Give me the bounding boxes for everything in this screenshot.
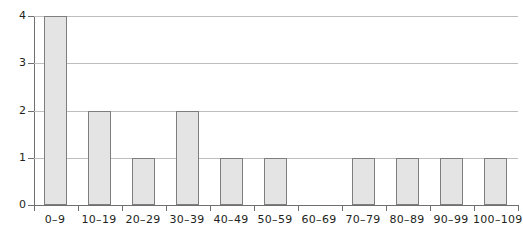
y-tick-label: 1 xyxy=(6,152,26,163)
bar xyxy=(264,158,287,205)
y-tick-label: 3 xyxy=(6,57,26,68)
bar xyxy=(220,158,243,205)
bar xyxy=(132,158,155,205)
bar xyxy=(176,111,199,206)
x-tick-mark xyxy=(34,205,35,211)
x-tick-label: 80–89 xyxy=(385,214,429,226)
x-tick-mark xyxy=(78,205,79,211)
y-tick-label: 4 xyxy=(6,10,26,21)
y-tick-label: 0 xyxy=(6,199,26,210)
x-tick-label: 100–109 xyxy=(473,214,517,226)
bar xyxy=(88,111,111,206)
x-tick-mark xyxy=(474,205,475,211)
y-tick-label: 2 xyxy=(6,105,26,116)
histogram-chart: g 01234 0–910–1920–2930–3940–4950–5960–6… xyxy=(0,0,523,232)
x-tick-label: 30–39 xyxy=(165,214,209,226)
bar xyxy=(352,158,375,205)
x-tick-label: 70–79 xyxy=(341,214,385,226)
x-tick-mark xyxy=(430,205,431,211)
x-tick-mark xyxy=(166,205,167,211)
x-tick-label: 0–9 xyxy=(33,214,77,226)
x-tick-label: 60–69 xyxy=(297,214,341,226)
x-tick-label: 40–49 xyxy=(209,214,253,226)
x-tick-label: 20–29 xyxy=(121,214,165,226)
bar xyxy=(396,158,419,205)
x-tick-mark xyxy=(518,205,519,211)
x-tick-label: 50–59 xyxy=(253,214,297,226)
x-tick-label: 90–99 xyxy=(429,214,473,226)
x-tick-mark xyxy=(210,205,211,211)
x-tick-mark xyxy=(122,205,123,211)
x-tick-mark xyxy=(342,205,343,211)
x-tick-label: 10–19 xyxy=(77,214,121,226)
x-tick-mark xyxy=(254,205,255,211)
x-tick-mark xyxy=(386,205,387,211)
plot-area xyxy=(34,16,518,205)
bar xyxy=(440,158,463,205)
x-tick-mark xyxy=(298,205,299,211)
x-axis-line xyxy=(28,205,518,206)
bar xyxy=(44,16,67,205)
bar xyxy=(484,158,507,205)
